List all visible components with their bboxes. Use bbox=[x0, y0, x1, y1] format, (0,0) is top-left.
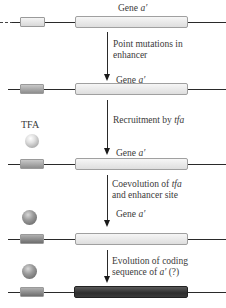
gene-coding-region-2 bbox=[75, 83, 188, 95]
dna-dashed-end bbox=[0, 22, 12, 23]
enhancer-original bbox=[20, 17, 45, 27]
gene-label-1: Gene a′ bbox=[118, 3, 147, 14]
tfa-protein-sphere-coevolved bbox=[22, 264, 37, 279]
arrow-down-icon bbox=[104, 276, 110, 283]
arrow-shaft-1 bbox=[107, 32, 108, 74]
transition-4-text: Evolution of coding sequence of a′ (?) bbox=[112, 256, 188, 278]
gene-coding-region-1 bbox=[75, 16, 188, 28]
arrow-shaft-3 bbox=[107, 175, 108, 222]
transition-1-text: Point mutations in enhancer bbox=[113, 39, 183, 61]
arrow-shaft-2 bbox=[107, 100, 108, 150]
gene-coding-region-4 bbox=[75, 233, 188, 245]
tfa-protein-sphere bbox=[25, 134, 39, 148]
enhancer-mutated bbox=[20, 159, 44, 169]
tfa-protein-sphere-coevolved bbox=[22, 210, 37, 225]
transition-2-text: Recruitment by tfa bbox=[113, 115, 184, 126]
arrow-shaft-4 bbox=[107, 250, 108, 277]
arrow-down-icon bbox=[104, 74, 110, 81]
tfa-label: TFA bbox=[21, 119, 39, 130]
arrow-down-icon bbox=[104, 148, 110, 155]
transition-3-text: Coevolution of tfa and enhancer site bbox=[112, 179, 182, 201]
gene-coding-region-3 bbox=[75, 158, 188, 170]
enhancer-coevolved bbox=[20, 287, 44, 297]
arrow-down-icon bbox=[104, 220, 110, 227]
enhancer-coevolved bbox=[20, 234, 44, 244]
gene-coding-region-evolved bbox=[74, 286, 188, 298]
enhancer-mutated bbox=[20, 84, 44, 94]
gene-label-4: Gene a′ bbox=[116, 209, 145, 220]
